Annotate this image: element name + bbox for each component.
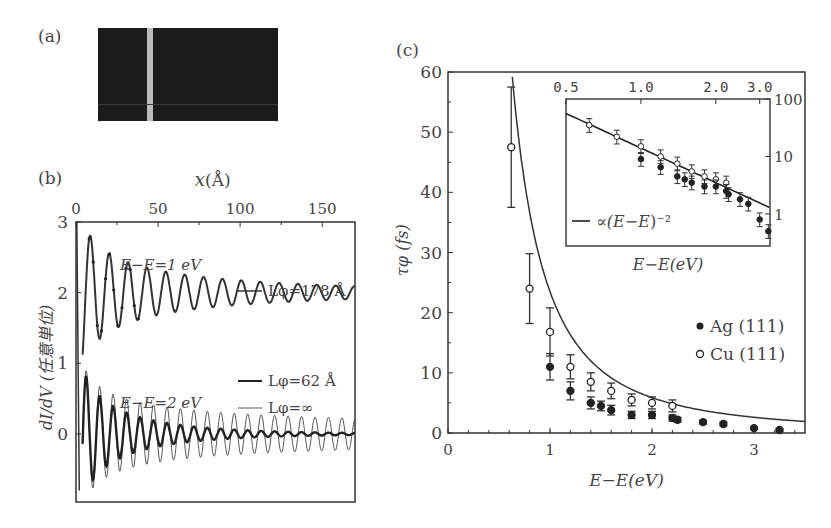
inset-ytick: 10 xyxy=(774,148,793,166)
panel-c-xtick: 3 xyxy=(749,441,759,459)
panel-b-xlabel: x xyxy=(195,169,205,190)
panel-b-ytick: 2 xyxy=(57,283,68,303)
cu-point xyxy=(526,285,533,292)
inset-point xyxy=(757,217,763,223)
ag-point xyxy=(547,363,554,370)
inset-legend-label: ∝(E−E xyxy=(596,212,650,231)
ag-point xyxy=(587,399,594,406)
figure-canvas: 0501001500123x(Å)dI/dV (任意単位)E−E=1 eVE−E… xyxy=(0,0,831,528)
panel-c-xlabel: E−E(eV) xyxy=(588,470,664,490)
inset-ytick: 100 xyxy=(774,91,803,109)
inset-xtick: 3.0 xyxy=(747,79,772,95)
panel-b-annotation: E−E=2 eV xyxy=(119,394,203,412)
inset-point xyxy=(638,156,644,162)
legend-ag-label: Ag (111) xyxy=(709,316,784,336)
ag-point xyxy=(598,402,605,409)
inset-ytick: 1 xyxy=(774,206,784,224)
inset-point xyxy=(675,161,681,167)
inset-point xyxy=(689,169,695,175)
panel-b-annotation: E−E=1 eV xyxy=(119,256,203,274)
panel-c-ytick: 50 xyxy=(420,122,442,142)
inset-point xyxy=(713,184,719,190)
panel-c-ylabel: τφ (fs) xyxy=(393,224,412,276)
ag-point xyxy=(751,425,758,432)
panel-c-xtick: 0 xyxy=(443,441,453,459)
cu-point xyxy=(567,363,574,370)
panel-b-xlabel-unit: (Å) xyxy=(205,170,231,190)
inset-point xyxy=(726,191,732,197)
panel-b-xtick: 150 xyxy=(308,200,337,218)
inset-point xyxy=(702,174,708,180)
panel-b-ytick: 3 xyxy=(57,212,68,232)
legend-cu-label: Cu (111) xyxy=(710,344,785,364)
panel-c-ytick: 30 xyxy=(420,243,442,263)
inset-xtick: 0.5 xyxy=(553,79,578,95)
ag-point xyxy=(720,420,727,427)
inset-point xyxy=(638,144,644,150)
cu-point xyxy=(649,399,656,406)
inset-point xyxy=(675,174,681,180)
inset-xtick: 1.0 xyxy=(628,79,653,95)
inset-point xyxy=(746,201,752,207)
panel-c-ytick: 10 xyxy=(420,363,442,383)
inset-xlabel: E−E(eV) xyxy=(632,255,703,274)
panel-b-ytick: 1 xyxy=(57,353,68,373)
inset-legend-exp: )⁻² xyxy=(650,212,671,231)
legend-cu-marker xyxy=(697,351,704,358)
panel-c-ytick: 20 xyxy=(420,303,442,323)
panel-c-ytick: 0 xyxy=(431,423,442,443)
inset-point xyxy=(766,228,772,234)
ag-point xyxy=(628,411,635,418)
cu-point xyxy=(508,144,515,151)
cu-point xyxy=(547,328,554,335)
ag-point xyxy=(674,416,681,423)
ag-point xyxy=(776,426,783,433)
cu-point xyxy=(587,378,594,385)
cu-point xyxy=(669,402,676,409)
inset-xtick: 2.0 xyxy=(703,79,728,95)
cu-point xyxy=(608,387,615,394)
panel-b-curve xyxy=(83,377,355,480)
panel-b-legend-1: Lφ=178 Å xyxy=(268,282,345,300)
panel-b-xtick: 0 xyxy=(71,200,81,218)
panel-b-ylabel: dI/dV (任意単位) xyxy=(37,305,56,430)
ag-point xyxy=(649,411,656,418)
inset-point xyxy=(658,154,664,160)
inset-point xyxy=(658,164,664,170)
panel-c-ytick: 60 xyxy=(420,62,442,82)
ag-point xyxy=(700,419,707,426)
inset-point xyxy=(737,196,743,202)
inset-point xyxy=(586,122,592,128)
cu-point xyxy=(628,396,635,403)
inset-point xyxy=(689,180,695,186)
panel-c-xtick: 1 xyxy=(545,441,555,459)
ag-point xyxy=(567,387,574,394)
panel-b-ytick: 0 xyxy=(57,424,68,444)
ag-point xyxy=(608,407,615,414)
panel-b-xtick: 100 xyxy=(226,200,255,218)
panel-b-xtick: 50 xyxy=(149,200,168,218)
panel-c-xtick: 2 xyxy=(647,441,657,459)
inset-point xyxy=(614,134,620,140)
panel-c-ytick: 40 xyxy=(420,182,442,202)
inset-point xyxy=(702,184,708,190)
panel-b-legend-3: Lφ=∞ xyxy=(268,399,314,417)
inset-point xyxy=(682,177,688,183)
panel-b-legend-2: Lφ=62 Å xyxy=(268,372,336,390)
legend-ag-marker xyxy=(697,323,704,330)
